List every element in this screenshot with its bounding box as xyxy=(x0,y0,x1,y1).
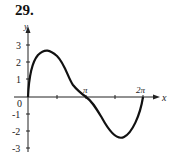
x-axis-label: x xyxy=(161,92,167,103)
y-tick-neg2: -2 xyxy=(12,126,20,137)
y-axis-label: y xyxy=(23,21,28,31)
y-tick-1: 1 xyxy=(16,74,21,85)
x-axis-arrow-icon xyxy=(153,95,160,100)
y-tick-3: 3 xyxy=(16,40,21,51)
y-tick-neg1: -1 xyxy=(12,109,20,120)
x-tick-pi: π xyxy=(83,85,88,95)
y-tick-0: 0 xyxy=(17,98,22,109)
y-tick-2: 2 xyxy=(16,57,21,68)
x-tick-2pi: 2π xyxy=(136,85,146,95)
function-graph: y x 3 2 1 0 -1 -2 -3 π 2π xyxy=(0,0,173,167)
y-tick-neg3: -3 xyxy=(12,143,20,154)
